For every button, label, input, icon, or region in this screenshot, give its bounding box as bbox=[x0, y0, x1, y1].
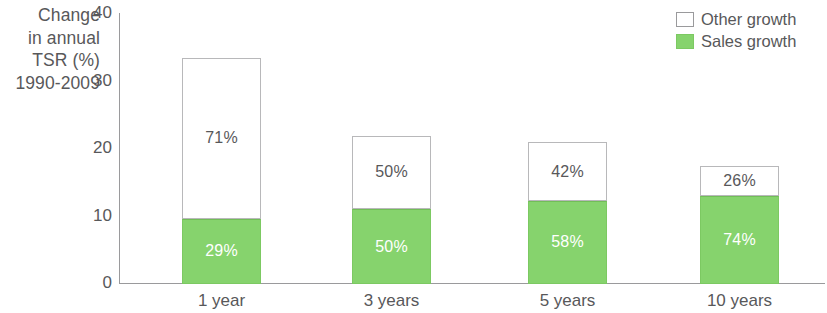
bar-label-sales-growth: 58% bbox=[551, 233, 584, 251]
y-tick-label-40: 40 bbox=[93, 3, 112, 23]
x-label-10-years: 10 years bbox=[707, 291, 772, 311]
plot-area: 010203040 71%29%50%50%42%58%26%74% 1 yea… bbox=[119, 13, 825, 284]
bar-label-other-growth: 26% bbox=[723, 172, 756, 190]
bar-group-1-year[interactable]: 71%29% bbox=[182, 58, 261, 284]
stacked-bar-chart: Change in annual TSR (%) 1990-2009 01020… bbox=[0, 0, 827, 313]
legend-item-other-growth: Other growth bbox=[676, 8, 796, 30]
bar-segment-sales-growth[interactable]: 74% bbox=[700, 196, 779, 284]
bar-segment-other-growth[interactable]: 50% bbox=[352, 136, 431, 210]
bar-segment-other-growth[interactable]: 71% bbox=[182, 58, 261, 219]
green-square-icon bbox=[676, 34, 694, 49]
bar-label-other-growth: 42% bbox=[551, 163, 584, 181]
y-axis-title-line-4: 1990-2009 bbox=[0, 72, 100, 95]
bar-label-other-growth: 71% bbox=[205, 129, 238, 147]
chart-legend: Other growth Sales growth bbox=[676, 8, 796, 52]
legend-item-sales-growth: Sales growth bbox=[676, 30, 796, 52]
x-label-1-year: 1 year bbox=[198, 291, 245, 311]
y-tick-label-10: 10 bbox=[93, 206, 112, 226]
x-label-3-years: 3 years bbox=[364, 291, 420, 311]
bar-group-3-years[interactable]: 50%50% bbox=[352, 136, 431, 285]
bar-label-sales-growth: 50% bbox=[375, 238, 408, 256]
legend-label-sales-growth: Sales growth bbox=[701, 32, 796, 51]
bar-group-5-years[interactable]: 42%58% bbox=[528, 142, 607, 284]
legend-label-other-growth: Other growth bbox=[701, 10, 796, 29]
bar-segment-other-growth[interactable]: 26% bbox=[700, 166, 779, 196]
y-axis-title-line-1: Change bbox=[0, 4, 100, 27]
bar-group-10-years[interactable]: 26%74% bbox=[700, 166, 779, 284]
y-axis-title-line-3: TSR (%) bbox=[0, 49, 100, 72]
bar-label-sales-growth: 74% bbox=[723, 231, 756, 249]
y-axis-title: Change in annual TSR (%) 1990-2009 bbox=[0, 4, 100, 94]
x-label-5-years: 5 years bbox=[540, 291, 596, 311]
white-square-icon bbox=[676, 12, 694, 27]
y-tick-label-0: 0 bbox=[103, 273, 112, 293]
bar-segment-sales-growth[interactable]: 29% bbox=[182, 219, 261, 284]
bar-segment-sales-growth[interactable]: 50% bbox=[352, 209, 431, 284]
y-axis-line bbox=[119, 13, 120, 284]
y-tick-label-30: 30 bbox=[93, 71, 112, 91]
bar-label-other-growth: 50% bbox=[375, 163, 408, 181]
bar-segment-other-growth[interactable]: 42% bbox=[528, 142, 607, 201]
bar-segment-sales-growth[interactable]: 58% bbox=[528, 201, 607, 284]
y-tick-label-20: 20 bbox=[93, 138, 112, 158]
y-axis-title-line-2: in annual bbox=[0, 27, 100, 50]
bar-label-sales-growth: 29% bbox=[205, 242, 238, 260]
